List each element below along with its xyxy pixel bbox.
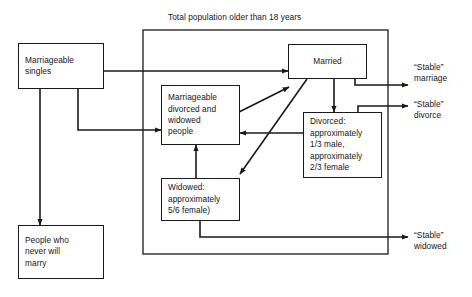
node-married[interactable]: Married [288, 44, 367, 79]
node-marriageable-divorced-widowed-label: Marriageable divorced and widowed people [168, 92, 217, 138]
node-divorced-label: Divorced: approximately 1/3 male, approx… [310, 116, 362, 173]
flow-diagram: Total population older than 18 years Mar… [0, 0, 472, 297]
edge-singles-to-divorced-widowed-pool [78, 89, 161, 130]
node-people-never-marry[interactable]: People who never will marry [18, 225, 104, 279]
outcome-stable-divorce: “Stable” divorce [414, 99, 443, 122]
outcome-stable-marriage: “Stable” marriage [414, 62, 447, 85]
population-frame-title: Total population older than 18 years [168, 12, 301, 23]
node-marriageable-divorced-widowed[interactable]: Marriageable divorced and widowed people [161, 85, 240, 145]
edge-widowed-to-stable-widowed [200, 221, 408, 237]
edge-married-to-widowed [240, 79, 307, 174]
node-married-label: Married [313, 56, 341, 67]
node-widowed[interactable]: Widowed: approximately 5/6 female) [161, 178, 240, 221]
edge-pool-to-married [235, 87, 289, 114]
node-divorced[interactable]: Divorced: approximately 1/3 male, approx… [303, 112, 382, 178]
outcome-stable-widowed: “Stable” widowed [414, 230, 447, 253]
node-people-never-marry-label: People who never will marry [25, 235, 69, 269]
node-marriageable-singles[interactable]: Marriageable singles [18, 43, 104, 89]
node-widowed-label: Widowed: approximately 5/6 female) [168, 182, 220, 216]
edge-married-to-stable-marriage [355, 79, 408, 85]
node-marriageable-singles-label: Marriageable singles [25, 55, 74, 78]
